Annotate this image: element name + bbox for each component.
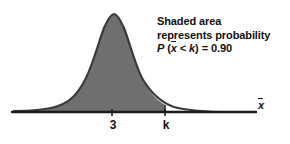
tick-label-mean: 3 [103, 118, 123, 132]
annotation-line-1: Shaded area [157, 15, 289, 29]
shaded-probability-area [14, 14, 165, 111]
tick-label-k: k [156, 118, 176, 132]
formula-operator: < [177, 42, 189, 54]
formula-value: 0.90 [211, 42, 232, 54]
x-axis-label-xbar: x [258, 99, 264, 111]
annotation-block: Shaded area represents probability P (x … [157, 15, 289, 56]
formula-equals: = [199, 42, 211, 54]
formula-xbar: x [171, 42, 177, 56]
annotation-line-2: represents probability [157, 29, 289, 43]
probability-formula: P (x < k) = 0.90 [157, 42, 289, 56]
x-axis-label: x [258, 99, 264, 111]
